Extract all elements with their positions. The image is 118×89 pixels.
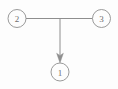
node-label-2: 2	[15, 14, 20, 24]
graph-node-1[interactable]: 1	[51, 63, 69, 81]
graph-node-2[interactable]: 2	[8, 10, 26, 28]
graph-diagram-canvas: 2 3 1	[0, 0, 118, 89]
node-label-1: 1	[58, 68, 63, 78]
graph-node-3[interactable]: 3	[93, 10, 111, 28]
node-label-3: 3	[99, 14, 104, 24]
graph-svg: 2 3 1	[0, 0, 118, 89]
edge-junction-node1[interactable]	[57, 19, 64, 64]
